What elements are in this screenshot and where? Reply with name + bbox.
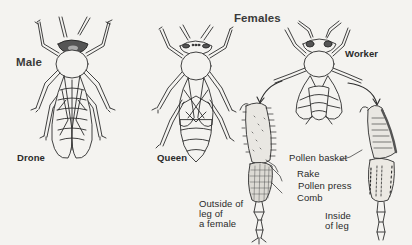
inside-leg-illustration — [360, 105, 396, 240]
drone-illustration — [31, 17, 115, 158]
label-queen: Queen — [157, 153, 187, 163]
label-drone: Drone — [17, 153, 45, 163]
label-inside-of-leg: Inside of leg — [325, 211, 351, 231]
label-male: Male — [16, 57, 42, 67]
outside-leg-illustration — [240, 103, 276, 244]
bee-diagram: Male Females Drone Queen Worker Outside … — [0, 0, 412, 245]
label-rake: Rake — [297, 169, 320, 179]
label-worker: Worker — [345, 49, 378, 59]
label-comb: Comb — [297, 193, 323, 203]
label-females: Females — [234, 13, 281, 23]
label-pollen-press: Pollen press — [298, 181, 351, 191]
queen-illustration — [152, 25, 236, 162]
label-pollen-basket: Pollen basket — [289, 153, 347, 163]
label-outside-of-leg: Outside of leg of a female — [199, 199, 243, 229]
